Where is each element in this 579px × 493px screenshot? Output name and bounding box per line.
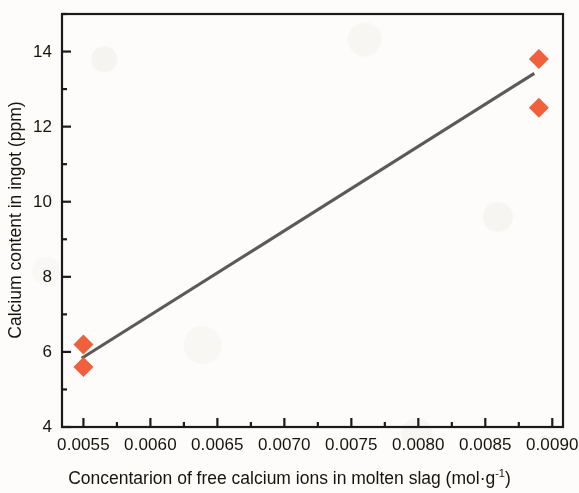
x-axis-title-base: Concentarion of free calcium ions in mol… — [68, 468, 495, 488]
y-tick-label: 4 — [8, 417, 52, 437]
x-tick-label: 0.0085 — [459, 435, 512, 455]
x-tick-label: 0.0090 — [526, 435, 579, 455]
x-tick-label: 0.0080 — [392, 435, 445, 455]
x-tick-label: 0.0060 — [124, 435, 177, 455]
x-tick-label: 0.0075 — [325, 435, 378, 455]
data-point-marker — [73, 357, 93, 377]
data-point-marker — [529, 98, 549, 118]
scatter-plot — [0, 0, 579, 493]
linear-fit-line — [82, 73, 535, 358]
x-tick-label: 0.0055 — [57, 435, 110, 455]
x-axis-title: Concentarion of free calcium ions in mol… — [0, 468, 579, 489]
x-axis-title-exponent: -1 — [495, 467, 505, 479]
x-tick-label: 0.0070 — [258, 435, 311, 455]
x-tick-label: 0.0065 — [191, 435, 244, 455]
x-axis-title-tail: ) — [505, 468, 511, 488]
figure-container: 141210864 0.00550.00600.00650.00700.0075… — [0, 0, 579, 493]
data-point-marker — [529, 49, 549, 69]
plot-frame — [62, 14, 563, 427]
y-axis-title: Calcium content in ingot (ppm) — [5, 55, 26, 385]
